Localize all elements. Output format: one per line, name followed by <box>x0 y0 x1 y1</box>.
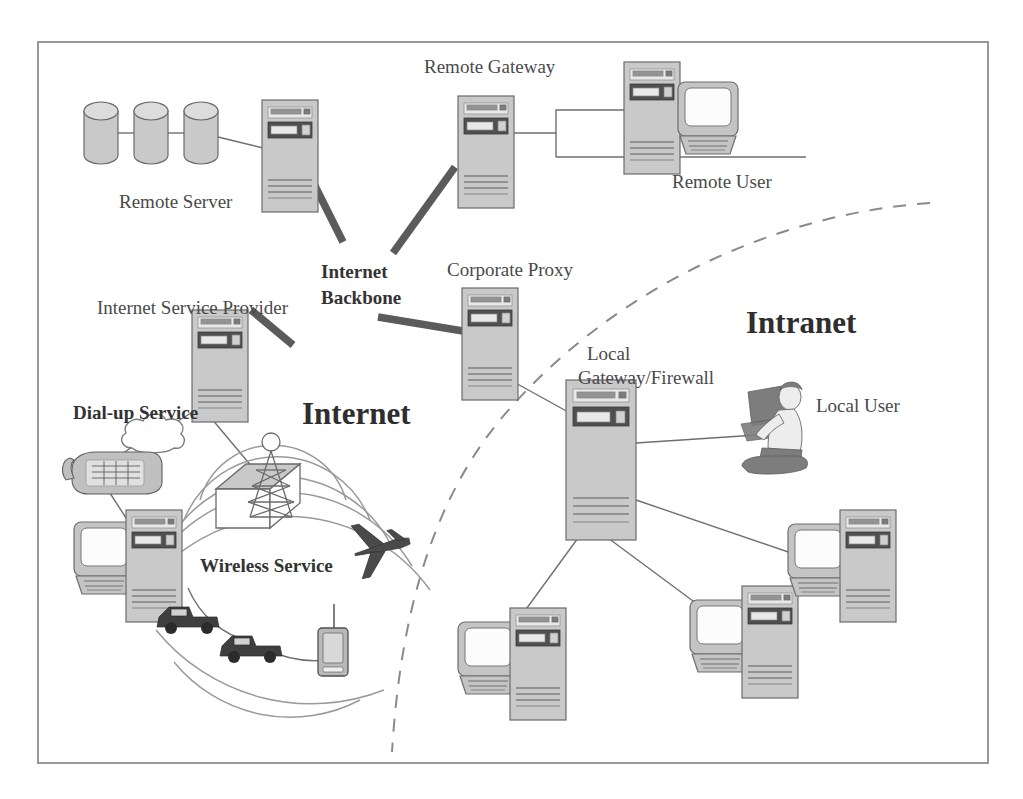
label-isp: Internet Service Provider <box>97 297 289 318</box>
local-gateway-firewall-tower[interactable] <box>566 380 636 540</box>
vehicle-icon <box>220 636 282 663</box>
network-diagram: Remote Server Remote Gateway Remote User… <box>0 0 1023 799</box>
diagram-canvas: Remote Server Remote Gateway Remote User… <box>0 0 1023 799</box>
link-vehicle1-vehicle2 <box>188 588 250 641</box>
dialup-workstation[interactable] <box>74 510 182 622</box>
intranet-workstation-2[interactable] <box>690 586 798 698</box>
remote-user-monitor <box>678 82 738 154</box>
zone-label-intranet: Intranet <box>746 305 857 340</box>
label-local-gateway-line1: Local <box>587 343 630 364</box>
disk-array[interactable] <box>84 102 218 164</box>
mobile-phone-icon <box>318 604 348 676</box>
backbone-corporate-proxy <box>378 317 463 331</box>
label-corporate-proxy: Corporate Proxy <box>447 259 574 280</box>
local-user-person[interactable] <box>741 382 808 474</box>
workstation-monitor <box>690 600 750 672</box>
workstation-monitor <box>458 622 518 694</box>
label-internet-backbone-line2: Backbone <box>321 287 401 308</box>
link-remote-gateway-remote-user <box>513 110 625 133</box>
corporate-proxy-tower[interactable] <box>462 288 518 400</box>
remote-server-tower[interactable] <box>262 100 318 212</box>
label-remote-gateway: Remote Gateway <box>424 56 556 77</box>
label-dialup-service: Dial-up Service <box>73 402 198 423</box>
disk-cylinder <box>134 102 168 164</box>
backbone-remote-gateway <box>393 167 455 253</box>
remote-user-tower <box>624 62 680 174</box>
workstation-tower <box>510 608 566 720</box>
vehicle-icon <box>157 607 219 634</box>
remote-gateway-tower[interactable] <box>458 96 514 208</box>
link-local-gateway-ws3 <box>636 500 800 556</box>
telephone[interactable] <box>63 452 162 494</box>
label-local-gateway-line2: Gateway/Firewall <box>578 367 714 388</box>
zone-label-internet: Internet <box>302 396 411 431</box>
dialup-monitor <box>74 522 134 594</box>
link-disks-remote-server <box>218 137 263 148</box>
dialup-tower <box>126 510 182 622</box>
intranet-workstation-1[interactable] <box>458 608 566 720</box>
disk-cylinder <box>84 102 118 164</box>
link-local-gateway-local-user <box>636 435 757 443</box>
airplane-icon <box>349 515 415 579</box>
label-wireless-service: Wireless Service <box>200 555 333 576</box>
label-remote-user: Remote User <box>672 171 772 192</box>
workstation-tower <box>840 510 896 622</box>
label-remote-server: Remote Server <box>119 191 233 212</box>
house-icon <box>216 464 300 528</box>
disk-cylinder <box>184 102 218 164</box>
workstation-monitor <box>788 524 848 596</box>
label-internet-backbone-line1: Internet <box>321 261 388 282</box>
intranet-workstation-3[interactable] <box>788 510 896 622</box>
label-local-user: Local User <box>816 395 901 416</box>
workstation-tower <box>742 586 798 698</box>
isp-tower[interactable] <box>192 310 248 422</box>
